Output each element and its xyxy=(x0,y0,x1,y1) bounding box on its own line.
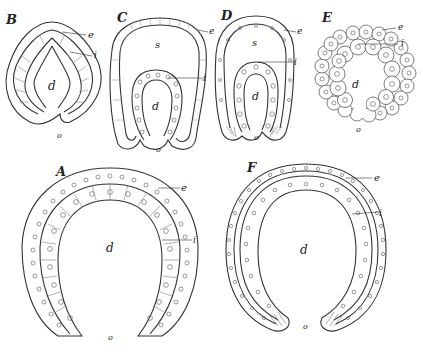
figure-label-b: B xyxy=(5,12,17,27)
figure-f: F e i d o xyxy=(226,160,386,331)
figure-label-e: E xyxy=(321,10,333,25)
label-d: d xyxy=(152,100,159,113)
figure-a: A e i d o xyxy=(22,164,198,342)
figure-label-c: C xyxy=(117,10,128,25)
figure-c: C e s i d o xyxy=(110,10,214,154)
figure-label-f: F xyxy=(246,160,257,175)
label-e: e xyxy=(88,29,94,40)
figure-e: E e i d o xyxy=(315,10,416,134)
figure-b: B e i d o xyxy=(5,12,101,140)
label-e: e xyxy=(209,26,214,36)
label-o: o xyxy=(108,333,113,342)
label-e: e xyxy=(181,182,187,193)
label-d: d xyxy=(352,78,359,91)
label-s: s xyxy=(252,37,257,48)
figure-label-a: A xyxy=(54,164,66,179)
label-o: o xyxy=(356,125,361,134)
label-e: e xyxy=(297,26,302,36)
label-d: d xyxy=(48,79,56,93)
label-o: o xyxy=(303,322,308,331)
label-i: i xyxy=(294,57,297,67)
figure-d: D e s i d o xyxy=(215,8,302,142)
label-d: d xyxy=(252,90,259,103)
label-i: i xyxy=(193,235,196,245)
label-i: i xyxy=(94,50,97,60)
label-i: i xyxy=(401,38,404,48)
label-d: d xyxy=(106,241,114,255)
label-s: s xyxy=(155,39,160,50)
label-i: i xyxy=(203,73,206,83)
label-d: d xyxy=(300,243,308,257)
label-o: o xyxy=(57,131,62,140)
label-o: o xyxy=(254,133,259,142)
label-e: e xyxy=(374,172,380,183)
label-o: o xyxy=(156,145,161,154)
figure-label-d: D xyxy=(220,8,233,23)
gastrula-diagram: B e i d o C e s i d o xyxy=(0,0,423,355)
label-i: i xyxy=(379,208,382,218)
label-e: e xyxy=(398,22,403,32)
